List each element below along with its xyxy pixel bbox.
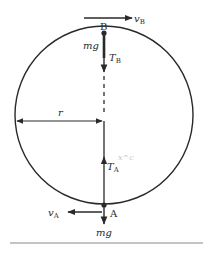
radius-label: r [58, 107, 64, 118]
circular-motion-diagram: vB B mg TB r TA x^c A vA mg [0, 0, 211, 254]
point-b-label: B [100, 21, 107, 32]
tension-a-label: TA [107, 161, 120, 174]
velocity-a-label: vA [48, 207, 60, 220]
velocity-b-label: vB [134, 13, 145, 26]
gravity-top-label: mg [83, 40, 99, 51]
point-a-dot [101, 202, 106, 207]
scribble-annotation: x^c [118, 153, 134, 162]
tension-b-label: TB [109, 52, 121, 65]
gravity-bottom-label: mg [96, 227, 112, 238]
point-a-label: A [109, 208, 118, 219]
